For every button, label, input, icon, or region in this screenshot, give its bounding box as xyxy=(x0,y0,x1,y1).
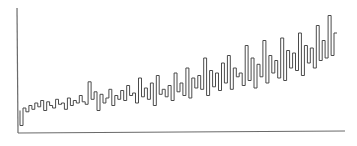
line-chart xyxy=(0,0,357,146)
y-axis xyxy=(17,8,18,133)
data-series-line xyxy=(20,16,337,126)
x-axis xyxy=(18,131,345,133)
